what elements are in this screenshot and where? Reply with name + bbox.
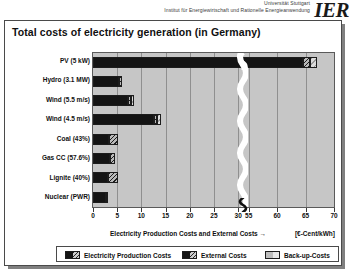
bar-row	[93, 95, 334, 106]
bar-segment-production	[93, 172, 108, 183]
x-axis-break-zigzag	[236, 198, 250, 212]
bar-segment-external	[109, 134, 118, 145]
y-axis-labels: PV (5 kW) Hydro (3.1 MW) Wind (5.5 m/s) …	[8, 52, 90, 208]
y-label-wind45: Wind (4.5 m/s)	[46, 115, 90, 122]
legend-label-external: External Costs	[201, 252, 247, 259]
bar-segment-external	[110, 153, 115, 164]
x-tick-label: 10	[138, 212, 145, 219]
bar-row	[93, 172, 334, 183]
x-tick-label: 60	[274, 212, 281, 219]
x-tick-label: 15	[162, 212, 169, 219]
bar-row	[93, 153, 334, 164]
bar-segment-external	[303, 57, 310, 68]
gridline	[334, 53, 335, 207]
university-name: Universität Stuttgart	[164, 0, 310, 7]
bar-segment-external	[106, 192, 109, 203]
y-label-pv: PV (5 kW)	[60, 57, 90, 64]
x-tick-label: 0	[91, 212, 95, 219]
x-tick-label: 5	[115, 212, 119, 219]
x-axis: 05101520253055606570	[92, 208, 335, 218]
x-tick-label: 55	[245, 212, 252, 219]
institute-department: Institut für Energiewirtschaft und Ratio…	[164, 7, 310, 14]
y-label-nuclear: Nuclear (PWR)	[45, 193, 90, 200]
x-axis-unit: [€-Cent/kWh]	[295, 230, 335, 237]
bar-segment-production	[93, 192, 106, 203]
x-tick-label: 20	[186, 212, 193, 219]
y-label-coal: Coal (43%)	[57, 135, 90, 142]
plot-area	[92, 52, 335, 208]
chart-title: Total costs of electricity generation (i…	[12, 26, 261, 38]
bar-break-zigzag	[236, 54, 250, 70]
institute-name: Universität Stuttgart Institut für Energ…	[164, 0, 310, 14]
legend-swatch-backup	[265, 251, 280, 259]
bar-segment-external	[108, 172, 118, 183]
legend-item-backup: Back-up-Costs	[265, 250, 330, 260]
bar-row	[93, 114, 334, 125]
bar-segment-production	[93, 134, 109, 145]
legend-swatch-external	[182, 251, 197, 259]
x-tick-label: 25	[210, 212, 217, 219]
bar-row	[93, 134, 334, 145]
bar-row	[93, 76, 334, 87]
bar-segment-backup	[131, 95, 134, 106]
bar-segment-backup	[157, 114, 161, 125]
bar-row	[93, 57, 334, 68]
chart-screenshot: Universität Stuttgart Institut für Energ…	[0, 0, 352, 270]
y-label-wind55: Wind (5.5 m/s)	[46, 96, 90, 103]
bar-segment-backup	[310, 57, 317, 68]
y-label-hydro: Hydro (3.1 MW)	[43, 76, 90, 83]
bar-segment-external	[119, 76, 121, 87]
legend-label-backup: Back-up-Costs	[284, 252, 330, 259]
legend-swatch-production	[65, 251, 80, 259]
plot-area-wrapper	[92, 52, 335, 208]
legend-item-production: Electricity Production Costs	[65, 250, 171, 260]
bar-segment-production	[93, 153, 110, 164]
bar-row	[93, 192, 334, 203]
x-tick-label: 30	[235, 212, 242, 219]
y-label-gascc: Gas CC (57.6%)	[42, 154, 90, 161]
page-header: Universität Stuttgart Institut für Energ…	[0, 0, 352, 20]
bar-segment-production	[93, 114, 154, 125]
bar-segment-production	[93, 57, 303, 68]
legend-label-production: Electricity Production Costs	[84, 252, 171, 259]
bar-segment-production	[93, 76, 119, 87]
bar-segment-production	[93, 95, 128, 106]
x-tick-label: 65	[302, 212, 309, 219]
chart-legend: Electricity Production Costs External Co…	[56, 246, 339, 262]
y-label-lignite: Lignite (40%)	[50, 174, 90, 181]
legend-item-external: External Costs	[182, 250, 247, 260]
x-tick-label: 70	[330, 212, 337, 219]
x-axis-title-main: Electricity Production Costs and Externa…	[110, 230, 266, 237]
